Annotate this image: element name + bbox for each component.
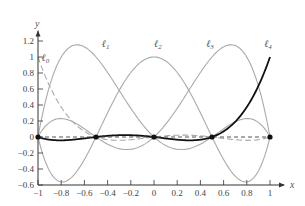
y-axis-arrow-icon	[36, 31, 41, 37]
curve-label: ℓ2	[154, 38, 162, 51]
y-axis-label: y	[34, 18, 40, 29]
curve-label: ℓ3	[206, 38, 214, 51]
node-marker	[35, 134, 40, 139]
x-tick-label: 0.2	[172, 188, 183, 198]
curve-ℓ4	[38, 57, 270, 140]
y-tick-label: 0.8	[23, 68, 35, 78]
curve-label: ℓ0	[41, 52, 49, 65]
node-marker	[267, 134, 272, 139]
node-marker	[93, 134, 98, 139]
x-tick-label: −0.8	[53, 188, 70, 198]
curve-labels: ℓ0ℓ1ℓ2ℓ3ℓ4	[41, 38, 272, 65]
y-tick-label: −0.6	[18, 180, 35, 190]
lagrange-basis-chart: −1−0.8−0.6−0.4−0.200.20.40.60.81−0.6−0.4…	[0, 0, 305, 206]
x-tick-label: 0.8	[241, 188, 253, 198]
node-marker	[209, 134, 214, 139]
curve-ℓ3	[38, 45, 270, 150]
x-tick-label: 0	[152, 188, 157, 198]
x-axis-label: x	[289, 179, 295, 190]
x-tick-label: −0.2	[123, 188, 139, 198]
curve-ℓ2	[38, 57, 270, 182]
y-tick-label: 0.2	[23, 116, 34, 126]
curve-label: ℓ4	[264, 38, 272, 51]
y-tick-label: 1	[30, 52, 35, 62]
y-tick-label: 0.4	[23, 100, 35, 110]
curve-ℓ0	[38, 57, 270, 140]
curve-ℓ1	[38, 45, 270, 150]
x-tick-label: −1	[33, 188, 43, 198]
x-tick-label: −0.4	[99, 188, 116, 198]
y-tick-label: 0	[30, 132, 35, 142]
y-tick-label: −0.4	[18, 164, 35, 174]
node-marker	[151, 134, 156, 139]
x-tick-label: 1	[268, 188, 273, 198]
y-tick-label: 0.6	[23, 84, 35, 94]
y-tick-label: 1.2	[23, 36, 34, 46]
x-tick-label: 0.4	[195, 188, 207, 198]
curves	[38, 45, 270, 182]
y-tick-label: −0.2	[18, 148, 34, 158]
x-axis-arrow-icon	[279, 183, 285, 188]
x-tick-label: 0.6	[218, 188, 230, 198]
x-tick-label: −0.6	[76, 188, 93, 198]
curve-label: ℓ1	[102, 38, 110, 51]
